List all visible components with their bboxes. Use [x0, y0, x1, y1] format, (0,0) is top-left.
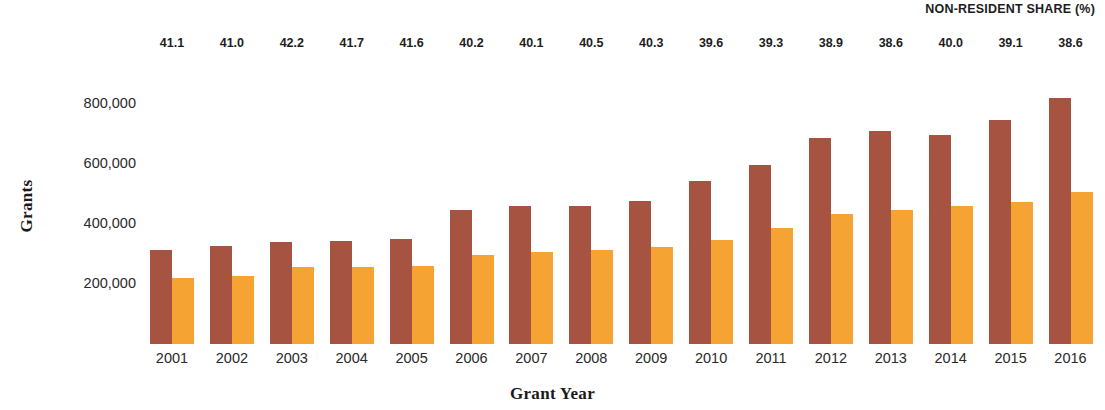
bar-total-grants: [809, 138, 831, 344]
x-axis-tick-label: 2014: [921, 350, 981, 366]
bar-non-resident-grants: [951, 206, 973, 344]
bar-non-resident-grants: [1011, 202, 1033, 344]
bar-total-grants: [450, 210, 472, 344]
bar-group: [450, 84, 494, 344]
bar-group: [569, 84, 613, 344]
bar-total-grants: [749, 165, 771, 344]
bar-total-grants: [569, 206, 591, 344]
bar-total-grants: [689, 181, 711, 344]
bar-total-grants: [330, 241, 352, 344]
bar-group: [210, 84, 254, 344]
bar-non-resident-grants: [472, 255, 494, 344]
bar-group: [689, 84, 733, 344]
bar-group: [390, 84, 434, 344]
x-axis-tick-label: 2015: [981, 350, 1041, 366]
bar-non-resident-grants: [1071, 192, 1093, 344]
bar-total-grants: [270, 242, 292, 344]
x-axis-tick-label: 2006: [442, 350, 502, 366]
x-axis-tick-label: 2011: [741, 350, 801, 366]
bar-total-grants: [150, 250, 172, 344]
x-axis-tick-label: 2004: [322, 350, 382, 366]
bar-total-grants: [1049, 98, 1071, 344]
bar-total-grants: [869, 131, 891, 344]
bar-non-resident-grants: [591, 250, 613, 344]
x-axis-tick-label: 2009: [621, 350, 681, 366]
bar-group: [629, 84, 673, 344]
bar-group: [150, 84, 194, 344]
x-axis-tick-label: 2002: [202, 350, 262, 366]
bar-non-resident-grants: [831, 214, 853, 344]
bar-non-resident-grants: [172, 278, 194, 344]
bar-non-resident-grants: [292, 267, 314, 344]
bar-group: [749, 84, 793, 344]
bar-group: [330, 84, 374, 344]
bar-non-resident-grants: [771, 228, 793, 344]
plot-area: 2001200220032004200520062007200820092010…: [0, 0, 1105, 410]
bar-group: [809, 84, 853, 344]
x-axis-tick-label: 2007: [501, 350, 561, 366]
bar-total-grants: [989, 120, 1011, 344]
bar-group: [869, 84, 913, 344]
x-axis-tick-label: 2008: [561, 350, 621, 366]
bar-total-grants: [210, 246, 232, 344]
bar-group: [270, 84, 314, 344]
bar-non-resident-grants: [352, 267, 374, 344]
bar-non-resident-grants: [891, 210, 913, 344]
x-axis-tick-label: 2001: [142, 350, 202, 366]
bar-total-grants: [629, 201, 651, 344]
x-axis-tick-label: 2005: [382, 350, 442, 366]
x-axis-tick-label: 2016: [1041, 350, 1101, 366]
bar-total-grants: [390, 239, 412, 344]
x-axis-tick-label: 2003: [262, 350, 322, 366]
bar-group: [1049, 84, 1093, 344]
bar-non-resident-grants: [412, 266, 434, 344]
bar-non-resident-grants: [531, 252, 553, 344]
bar-group: [989, 84, 1033, 344]
bar-total-grants: [509, 206, 531, 344]
bar-total-grants: [929, 135, 951, 344]
bar-group: [929, 84, 973, 344]
x-axis-tick-label: 2013: [861, 350, 921, 366]
bar-non-resident-grants: [711, 240, 733, 344]
bar-non-resident-grants: [651, 247, 673, 344]
bar-group: [509, 84, 553, 344]
chart-figure: NON-RESIDENT SHARE (%) 41.141.042.241.74…: [0, 0, 1105, 410]
bar-non-resident-grants: [232, 276, 254, 344]
x-axis-tick-label: 2012: [801, 350, 861, 366]
x-axis-tick-label: 2010: [681, 350, 741, 366]
